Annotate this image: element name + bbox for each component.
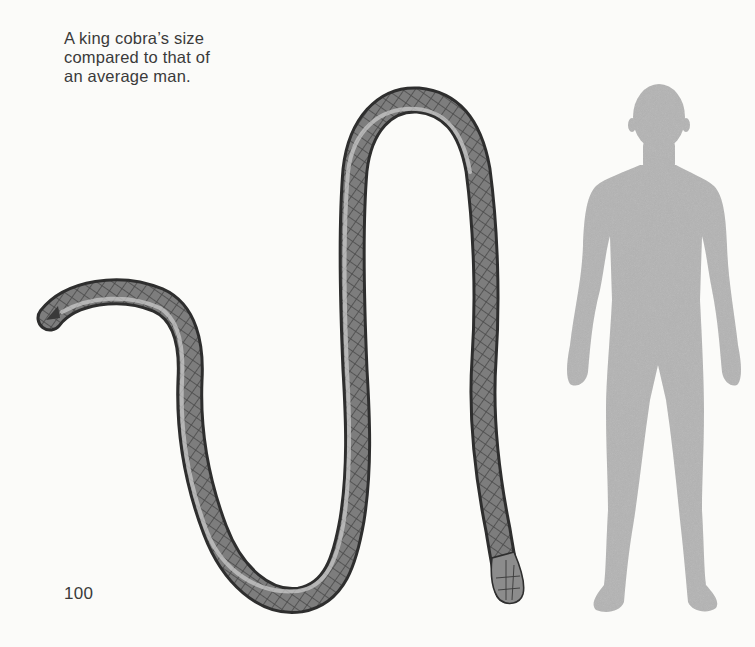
illustration-canvas <box>0 0 755 647</box>
snake-illustration <box>46 100 524 603</box>
book-page: A king cobra’s size compared to that of … <box>0 0 755 647</box>
page-number: 100 <box>64 584 93 604</box>
human-silhouette <box>567 84 741 612</box>
